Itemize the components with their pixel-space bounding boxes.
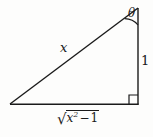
base-side-label: √x2−1 — [57, 111, 99, 126]
radicand-operator: − — [78, 111, 90, 125]
radical-expression: √x2−1 — [57, 111, 99, 126]
radicand: x2−1 — [66, 110, 100, 124]
trig-triangle-figure: x 1 θ √x2−1 — [0, 0, 153, 137]
hypotenuse-label: x — [60, 41, 67, 54]
angle-theta-label: θ — [128, 7, 135, 19]
opposite-side-label: 1 — [141, 54, 149, 67]
radicand-constant: 1 — [91, 111, 99, 125]
radical-sign-icon: √ — [57, 110, 66, 128]
hypotenuse-line — [10, 8, 138, 104]
right-angle-marker-icon — [129, 95, 138, 104]
